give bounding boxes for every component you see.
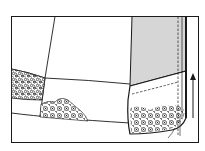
diagram-canvas [0,0,205,151]
sewing-diagram: Sewing illustration: pieced quilt/skirt … [0,0,205,151]
